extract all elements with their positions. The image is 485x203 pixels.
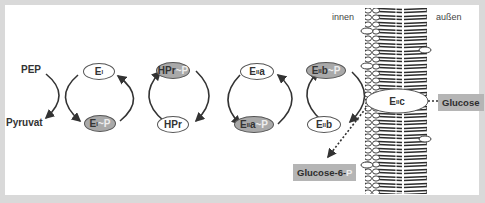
glucose-label: Glucose	[438, 94, 484, 111]
node-eiib-phosphorylated: EIIb~P	[306, 62, 346, 79]
node-eiic: EIIc	[380, 93, 414, 110]
node-eiia-phosphorylated: EIIa~P	[234, 116, 274, 133]
node-eiia: EIIa	[240, 63, 274, 80]
outside-label: außen	[436, 12, 462, 23]
inside-label: innen	[332, 12, 354, 23]
node-ei-phosphorylated: EI~P	[84, 115, 116, 132]
node-eiib: EIIb	[307, 116, 341, 133]
node-ei: EI	[83, 63, 115, 80]
glucose-6-phosphate-label: Glucose-6-P	[293, 164, 356, 181]
pyruvat-label: Pyruvat	[6, 117, 43, 129]
pep-label: PEP	[21, 64, 41, 76]
node-hpr: HPr	[157, 116, 189, 133]
node-hpr-phosphorylated: HPr~P	[156, 62, 190, 79]
